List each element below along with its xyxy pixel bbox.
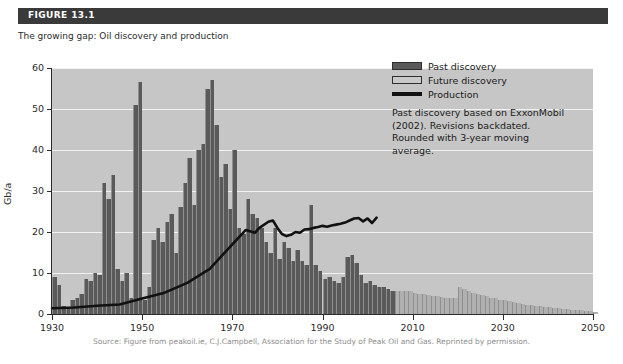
x-axis-tick xyxy=(593,314,594,320)
x-axis-tick-label: 1990 xyxy=(303,322,343,333)
legend-item-past-discovery: Past discovery xyxy=(392,60,572,72)
figure-label: FIGURE 13.1 xyxy=(28,10,95,20)
y-axis-tick-label: 10 xyxy=(4,267,44,278)
x-axis-tick xyxy=(142,314,143,320)
legend-swatch-production xyxy=(392,92,422,96)
x-axis-tick xyxy=(323,314,324,320)
legend-item-production: Production xyxy=(392,88,572,100)
y-axis-tick xyxy=(47,68,52,69)
legend-swatch-past-discovery xyxy=(392,62,422,70)
legend-label-production: Production xyxy=(428,89,479,100)
x-axis-tick xyxy=(52,314,53,320)
y-axis-tick-label: 40 xyxy=(4,144,44,155)
x-axis-tick-label: 2010 xyxy=(393,322,433,333)
y-axis-tick-label: 50 xyxy=(4,103,44,114)
legend-label-future-discovery: Future discovery xyxy=(428,75,507,86)
x-axis-tick-label: 1930 xyxy=(32,322,72,333)
chart-container: Gb/a 0102030405060 193019501970199020102… xyxy=(0,55,623,355)
y-axis-tick xyxy=(47,191,52,192)
x-axis-tick-label: 1950 xyxy=(122,322,162,333)
x-axis-tick-label: 2050 xyxy=(573,322,613,333)
y-axis-tick xyxy=(47,109,52,110)
y-axis-tick-label: 30 xyxy=(4,185,44,196)
legend-label-past-discovery: Past discovery xyxy=(428,61,496,72)
y-axis-tick-label: 60 xyxy=(4,62,44,73)
legend-note: Past discovery based on ExxonMobil (2002… xyxy=(392,107,572,157)
x-axis-tick xyxy=(413,314,414,320)
x-axis-tick-label: 2030 xyxy=(483,322,523,333)
y-axis-tick xyxy=(47,273,52,274)
y-axis-tick-label: 0 xyxy=(4,308,44,319)
legend: Past discovery Future discovery Producti… xyxy=(392,60,572,157)
figure-caption: The growing gap: Oil discovery and produ… xyxy=(18,31,228,41)
source-caption: Source: Figure from peakoil.ie, C.J.Camp… xyxy=(0,337,623,346)
figure-banner: FIGURE 13.1 xyxy=(18,8,608,24)
x-axis-tick-label: 1970 xyxy=(212,322,252,333)
x-axis-tick xyxy=(503,314,504,320)
y-axis-tick xyxy=(47,150,52,151)
y-axis-tick xyxy=(47,232,52,233)
legend-swatch-future-discovery xyxy=(392,76,422,84)
legend-item-future-discovery: Future discovery xyxy=(392,74,572,86)
x-axis-tick xyxy=(232,314,233,320)
y-axis-tick-label: 20 xyxy=(4,226,44,237)
